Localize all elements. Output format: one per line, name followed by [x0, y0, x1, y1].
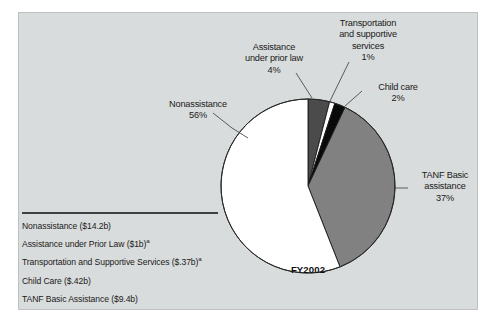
- legend-item: Transportation and Supportive Services (…: [22, 257, 252, 267]
- legend-item-label: Nonassistance ($14.2b): [22, 221, 111, 231]
- leader-line-child-care: [345, 91, 362, 106]
- leader-line-transportation: [330, 62, 349, 101]
- legend-item: Child Care ($.42b): [22, 276, 252, 286]
- legend: Nonassistance ($14.2b)Assistance under P…: [22, 212, 252, 312]
- callout-tanf-basic-assistance: TANF Basic assistance 37%: [406, 170, 484, 204]
- legend-item-label: TANF Basic Assistance ($9.4b): [22, 294, 138, 304]
- legend-item-label: Transportation and Supportive Services (…: [22, 257, 198, 267]
- legend-item: Assistance under Prior Law ($1b)a: [22, 239, 252, 249]
- chart-period-label: FY2002: [262, 264, 354, 275]
- callout-transportation-and-supportive-services: Transportation and supportive services 1…: [324, 18, 412, 64]
- callout-assistance-under-prior-law: Assistance under prior law 4%: [228, 42, 320, 76]
- legend-item-footnote-marker: a: [146, 237, 149, 244]
- figure-pie-chart: Nonassistance 56% Assistance under prior…: [0, 0, 496, 324]
- legend-item: TANF Basic Assistance ($9.4b): [22, 294, 252, 304]
- legend-item-list: Nonassistance ($14.2b)Assistance under P…: [22, 221, 252, 304]
- callout-nonassistance: Nonassistance 56%: [150, 99, 246, 122]
- legend-item-label: Assistance under Prior Law ($1b): [22, 239, 146, 249]
- callout-child-care: Child care 2%: [362, 82, 434, 105]
- leader-line-prior-law: [296, 73, 312, 98]
- legend-item: Nonassistance ($14.2b): [22, 221, 252, 231]
- legend-divider: [22, 212, 218, 214]
- legend-item-footnote-marker: a: [198, 256, 201, 263]
- legend-item-label: Child Care ($.42b): [22, 276, 91, 286]
